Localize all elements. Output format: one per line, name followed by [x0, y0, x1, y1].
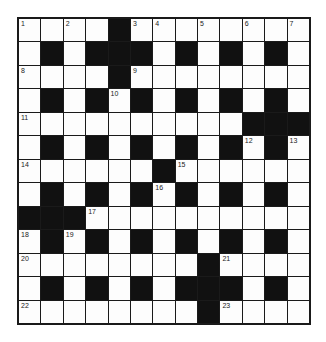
answer-cell[interactable] — [41, 113, 62, 135]
answer-cell[interactable] — [198, 207, 219, 229]
answer-cell[interactable] — [19, 136, 40, 158]
answer-cell[interactable] — [243, 254, 264, 276]
answer-cell[interactable]: 7 — [288, 19, 309, 41]
answer-cell[interactable] — [64, 113, 85, 135]
answer-cell[interactable]: 9 — [131, 66, 152, 88]
answer-cell[interactable] — [198, 113, 219, 135]
answer-cell[interactable] — [288, 230, 309, 252]
answer-cell[interactable] — [109, 230, 130, 252]
answer-cell[interactable]: 12 — [243, 136, 264, 158]
answer-cell[interactable] — [64, 277, 85, 299]
answer-cell[interactable] — [288, 66, 309, 88]
answer-cell[interactable] — [288, 89, 309, 111]
answer-cell[interactable] — [243, 301, 264, 323]
answer-cell[interactable] — [64, 136, 85, 158]
answer-cell[interactable]: 5 — [198, 19, 219, 41]
answer-cell[interactable] — [198, 42, 219, 64]
answer-cell[interactable] — [109, 183, 130, 205]
answer-cell[interactable] — [243, 160, 264, 182]
answer-cell[interactable] — [176, 113, 197, 135]
answer-cell[interactable]: 15 — [176, 160, 197, 182]
answer-cell[interactable] — [265, 207, 286, 229]
answer-cell[interactable] — [19, 277, 40, 299]
answer-cell[interactable] — [176, 254, 197, 276]
answer-cell[interactable] — [64, 301, 85, 323]
answer-cell[interactable] — [86, 19, 107, 41]
answer-cell[interactable] — [109, 136, 130, 158]
answer-cell[interactable] — [288, 254, 309, 276]
answer-cell[interactable]: 16 — [153, 183, 174, 205]
answer-cell[interactable] — [198, 66, 219, 88]
answer-cell[interactable] — [64, 66, 85, 88]
answer-cell[interactable] — [64, 42, 85, 64]
answer-cell[interactable] — [176, 19, 197, 41]
answer-cell[interactable] — [198, 136, 219, 158]
answer-cell[interactable] — [109, 301, 130, 323]
answer-cell[interactable] — [243, 66, 264, 88]
answer-cell[interactable] — [288, 183, 309, 205]
answer-cell[interactable] — [109, 207, 130, 229]
answer-cell[interactable] — [153, 277, 174, 299]
answer-cell[interactable] — [86, 66, 107, 88]
answer-cell[interactable] — [288, 42, 309, 64]
answer-cell[interactable] — [153, 207, 174, 229]
answer-cell[interactable] — [198, 183, 219, 205]
answer-cell[interactable] — [19, 89, 40, 111]
answer-cell[interactable] — [153, 230, 174, 252]
answer-cell[interactable]: 2 — [64, 19, 85, 41]
answer-cell[interactable] — [265, 301, 286, 323]
answer-cell[interactable]: 1 — [19, 19, 40, 41]
answer-cell[interactable] — [176, 301, 197, 323]
answer-cell[interactable] — [131, 301, 152, 323]
answer-cell[interactable] — [109, 113, 130, 135]
answer-cell[interactable]: 11 — [19, 113, 40, 135]
answer-cell[interactable] — [86, 160, 107, 182]
answer-cell[interactable]: 13 — [288, 136, 309, 158]
answer-cell[interactable] — [19, 183, 40, 205]
answer-cell[interactable] — [131, 160, 152, 182]
answer-cell[interactable] — [243, 277, 264, 299]
answer-cell[interactable] — [19, 42, 40, 64]
answer-cell[interactable] — [243, 42, 264, 64]
answer-cell[interactable] — [265, 19, 286, 41]
answer-cell[interactable]: 18 — [19, 230, 40, 252]
answer-cell[interactable] — [64, 254, 85, 276]
answer-cell[interactable] — [41, 160, 62, 182]
answer-cell[interactable] — [176, 66, 197, 88]
answer-cell[interactable] — [41, 301, 62, 323]
answer-cell[interactable] — [153, 66, 174, 88]
answer-cell[interactable]: 10 — [109, 89, 130, 111]
answer-cell[interactable] — [109, 254, 130, 276]
answer-cell[interactable] — [243, 230, 264, 252]
answer-cell[interactable] — [243, 183, 264, 205]
answer-cell[interactable] — [176, 207, 197, 229]
answer-cell[interactable] — [198, 230, 219, 252]
answer-cell[interactable]: 14 — [19, 160, 40, 182]
answer-cell[interactable] — [220, 160, 241, 182]
answer-cell[interactable] — [243, 89, 264, 111]
answer-cell[interactable] — [109, 160, 130, 182]
answer-cell[interactable] — [265, 66, 286, 88]
answer-cell[interactable]: 21 — [220, 254, 241, 276]
answer-cell[interactable] — [288, 160, 309, 182]
answer-cell[interactable] — [220, 207, 241, 229]
answer-cell[interactable]: 20 — [19, 254, 40, 276]
answer-cell[interactable] — [153, 136, 174, 158]
answer-cell[interactable]: 6 — [243, 19, 264, 41]
answer-cell[interactable] — [41, 19, 62, 41]
answer-cell[interactable] — [288, 301, 309, 323]
answer-cell[interactable] — [86, 113, 107, 135]
answer-cell[interactable]: 8 — [19, 66, 40, 88]
answer-cell[interactable]: 23 — [220, 301, 241, 323]
answer-cell[interactable] — [243, 207, 264, 229]
answer-cell[interactable] — [153, 42, 174, 64]
answer-cell[interactable] — [64, 160, 85, 182]
answer-cell[interactable]: 22 — [19, 301, 40, 323]
answer-cell[interactable] — [220, 19, 241, 41]
answer-cell[interactable] — [86, 254, 107, 276]
answer-cell[interactable] — [131, 207, 152, 229]
answer-cell[interactable] — [64, 89, 85, 111]
answer-cell[interactable] — [153, 89, 174, 111]
answer-cell[interactable] — [64, 183, 85, 205]
answer-cell[interactable] — [265, 254, 286, 276]
